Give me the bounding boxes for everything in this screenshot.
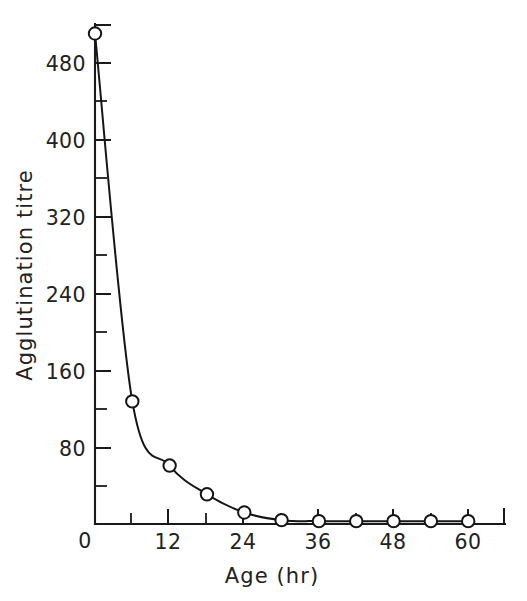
data-point-0hr [89, 27, 101, 39]
figure-root: 480 400 320 240 160 80 0 12 24 36 48 60 … [0, 0, 527, 601]
x-axis-title: Age (hr) [225, 564, 319, 588]
x-tick-label-12: 12 [155, 530, 182, 554]
data-point-18hr [201, 488, 213, 500]
agglutination-titre-decay-chart: 480 400 320 240 160 80 0 12 24 36 48 60 … [0, 0, 527, 601]
data-point-48hr [387, 515, 399, 527]
data-point-30hr [275, 514, 287, 526]
x-tick-label-48: 48 [380, 530, 407, 554]
data-point-42hr [350, 515, 362, 527]
data-point-6hr [126, 395, 138, 407]
y-tick-label-160: 160 [46, 360, 86, 384]
x-tick-label-60: 60 [455, 530, 482, 554]
x-tick-label-36: 36 [305, 530, 332, 554]
data-point-54hr [425, 515, 437, 527]
x-tick-label-0: 0 [78, 529, 91, 553]
data-point-36hr [313, 515, 325, 527]
y-tick-label-80: 80 [59, 437, 86, 461]
y-tick-label-480: 480 [46, 52, 86, 76]
x-tick-label-24: 24 [230, 530, 257, 554]
y-tick-label-240: 240 [46, 283, 86, 307]
y-tick-label-320: 320 [46, 206, 86, 230]
data-point-60hr [462, 515, 474, 527]
y-tick-label-400: 400 [46, 129, 86, 153]
data-point-12hr [163, 459, 175, 471]
data-point-24hr [238, 506, 250, 518]
y-axis-title: Agglutination titre [13, 169, 37, 381]
